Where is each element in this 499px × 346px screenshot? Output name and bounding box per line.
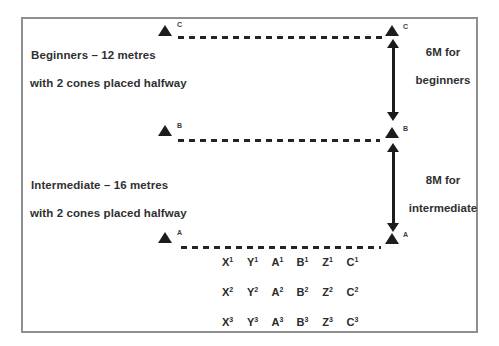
grid-cell-base: C xyxy=(347,256,355,268)
arrowhead-up-icon xyxy=(387,143,399,152)
cone-c-right-icon xyxy=(385,25,399,36)
grid-cell-base: X xyxy=(222,256,229,268)
grid-cell-sup: 1 xyxy=(329,256,333,263)
grid-cell-base: Y xyxy=(247,316,254,328)
intermediate-title: Intermediate – 16 metres xyxy=(31,179,168,191)
grid-cell-base: B xyxy=(297,286,305,298)
cone-b-right-label: B xyxy=(403,125,408,132)
cone-c-right-label: C xyxy=(403,23,408,30)
cone-a-right-label: A xyxy=(403,231,408,238)
grid-cell-base: X xyxy=(222,316,229,328)
grid-cell: X2 xyxy=(215,282,240,312)
grid-cell-sup: 2 xyxy=(305,286,309,293)
grid-cell-base: Z xyxy=(322,316,329,328)
cone-c-left-icon xyxy=(158,25,172,36)
grid-cell-sup: 3 xyxy=(229,316,233,323)
grid-cell: Y1 xyxy=(240,252,265,282)
grid-cell-base: B xyxy=(297,256,305,268)
grid-cell-sup: 1 xyxy=(229,256,233,263)
beginners-gap-line1: 6M for xyxy=(408,46,478,58)
position-grid: X1 Y1 A1 B1 Z1 C1 X2 Y2 A2 B2 Z2 C2 X3 Y… xyxy=(215,252,365,342)
grid-cell: A1 xyxy=(265,252,290,282)
grid-cell-base: Z xyxy=(322,286,329,298)
grid-cell: B2 xyxy=(290,282,315,312)
grid-cell: A3 xyxy=(265,312,290,342)
grid-cell: A2 xyxy=(265,282,290,312)
grid-cell: C1 xyxy=(340,252,365,282)
cone-line-c-dashed xyxy=(178,36,382,39)
intermediate-gap-line1: 8M for xyxy=(408,174,478,186)
grid-cell-sup: 3 xyxy=(355,316,359,323)
grid-cell: X3 xyxy=(215,312,240,342)
grid-cell-base: A xyxy=(272,256,280,268)
grid-cell: C3 xyxy=(340,312,365,342)
grid-cell-base: C xyxy=(347,286,355,298)
grid-cell-base: A xyxy=(272,286,280,298)
grid-cell: Y2 xyxy=(240,282,265,312)
grid-cell-sup: 3 xyxy=(305,316,309,323)
grid-cell: Z1 xyxy=(315,252,340,282)
arrowhead-down-icon xyxy=(387,223,399,232)
grid-cell: X1 xyxy=(215,252,240,282)
grid-cell: Z3 xyxy=(315,312,340,342)
grid-cell-sup: 1 xyxy=(355,256,359,263)
cone-line-a-dashed xyxy=(181,246,381,249)
arrow-shaft xyxy=(392,152,395,223)
distance-arrow-intermediate xyxy=(386,143,400,232)
grid-cell-base: Y xyxy=(247,256,254,268)
grid-cell: Z2 xyxy=(315,282,340,312)
grid-cell-sup: 2 xyxy=(280,286,284,293)
grid-cell-sup: 1 xyxy=(280,256,284,263)
grid-cell-base: A xyxy=(272,316,280,328)
grid-cell-base: C xyxy=(347,316,355,328)
beginners-gap-line2: beginners xyxy=(408,74,478,86)
arrow-shaft xyxy=(392,48,395,112)
grid-cell: Y3 xyxy=(240,312,265,342)
grid-cell-base: Z xyxy=(322,256,329,268)
intermediate-subtitle: with 2 cones placed halfway xyxy=(30,207,187,219)
grid-cell-sup: 1 xyxy=(254,256,258,263)
grid-cell-sup: 2 xyxy=(254,286,258,293)
beginners-title: Beginners – 12 metres xyxy=(31,49,156,61)
grid-cell: B3 xyxy=(290,312,315,342)
grid-cell-sup: 2 xyxy=(355,286,359,293)
beginners-subtitle: with 2 cones placed halfway xyxy=(30,77,187,89)
grid-cell: C2 xyxy=(340,282,365,312)
arrowhead-up-icon xyxy=(387,39,399,48)
grid-cell-base: B xyxy=(297,316,305,328)
cone-line-b-dashed xyxy=(178,139,380,142)
grid-cell-sup: 3 xyxy=(280,316,284,323)
arrowhead-down-icon xyxy=(387,112,399,121)
distance-arrow-beginners xyxy=(386,39,400,121)
cone-b-left-icon xyxy=(158,125,172,136)
cone-b-right-icon xyxy=(385,127,399,138)
grid-cell: B1 xyxy=(290,252,315,282)
cone-a-left-label: A xyxy=(177,229,182,236)
intermediate-gap-line2: intermediate xyxy=(401,202,485,214)
cone-b-left-label: B xyxy=(177,122,182,129)
grid-cell-sup: 3 xyxy=(329,316,333,323)
grid-cell-sup: 2 xyxy=(329,286,333,293)
cone-a-right-icon xyxy=(385,233,399,244)
grid-cell-sup: 2 xyxy=(229,286,233,293)
diagram-page: Beginners – 12 metres with 2 cones place… xyxy=(0,0,499,346)
grid-cell-base: X xyxy=(222,286,229,298)
grid-cell-sup: 3 xyxy=(254,316,258,323)
grid-cell-base: Y xyxy=(247,286,254,298)
cone-a-left-icon xyxy=(158,232,172,243)
grid-cell-sup: 1 xyxy=(305,256,309,263)
cone-c-left-label: C xyxy=(177,21,182,28)
